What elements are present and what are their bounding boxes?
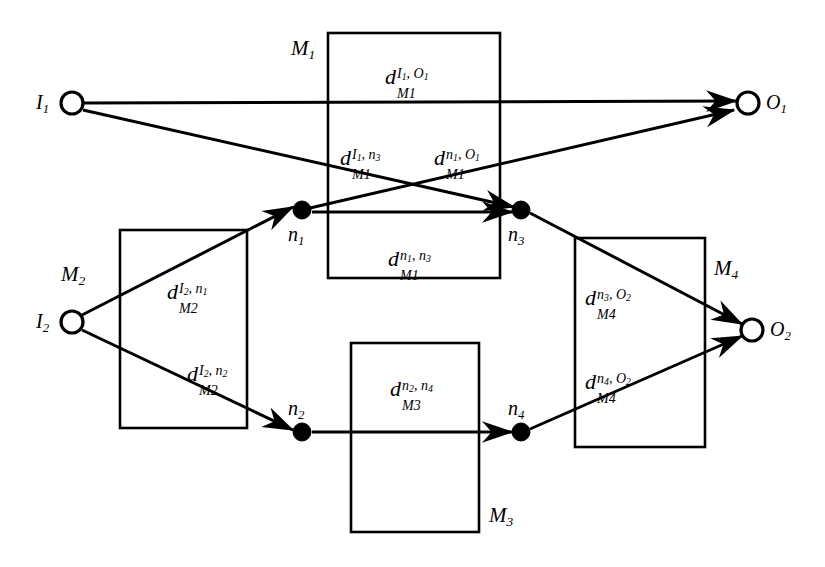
edge-label-d-M1-I1-n3: dI1, n3M1 — [340, 147, 351, 169]
edge-I2-n1 — [82, 207, 293, 315]
module-box-M3 — [351, 343, 479, 532]
network-diagram: M1M2M3M4I1I2n1n2n3n4O1O2dI1, O1M1dI1, n3… — [0, 0, 825, 567]
edge-n3-O2 — [530, 213, 742, 324]
edge-label-d-M1-I1-O1: dI1, O1M1 — [385, 66, 396, 88]
node-label-I1: I1 — [36, 92, 49, 115]
edge-label-d-M2-I2-n2: dI2, n2M2 — [187, 363, 198, 385]
edge-label-d-M1-n1-n3: dn1, n3M1 — [388, 248, 399, 270]
node-label-n4: n4 — [508, 398, 524, 421]
module-label-M1: M1 — [291, 38, 315, 61]
node-label-O2: O2 — [770, 319, 791, 342]
edge-label-d-M1-n1-O1: dn1, O1M1 — [434, 147, 445, 169]
node-I2 — [61, 311, 83, 333]
node-O1 — [737, 92, 759, 114]
module-label-M3: M3 — [489, 505, 513, 528]
node-label-n2: n2 — [288, 398, 304, 421]
edge-label-d-M4-n3-O2: dn3, O2M4 — [585, 287, 596, 309]
edge-label-d-M2-I2-n1: dI2, n1M2 — [167, 281, 178, 303]
node-label-n3: n3 — [508, 224, 524, 247]
node-label-O1: O1 — [766, 92, 787, 115]
node-n1 — [293, 201, 311, 219]
node-n2 — [293, 423, 311, 441]
edge-n4-O2 — [530, 336, 742, 429]
node-n4 — [512, 423, 530, 441]
module-label-M4: M4 — [714, 258, 738, 281]
module-label-M2: M2 — [61, 264, 85, 287]
node-O2 — [741, 319, 763, 341]
node-label-n1: n1 — [288, 224, 304, 247]
edge-label-d-M4-n4-O2: dn4, O2M4 — [585, 371, 596, 393]
edge-label-d-M3-n2-n4: dn2, n4M3 — [390, 378, 401, 400]
node-I1 — [61, 92, 83, 114]
node-n3 — [512, 201, 530, 219]
node-label-I2: I2 — [36, 311, 49, 334]
edge-I1-O1 — [84, 101, 736, 103]
